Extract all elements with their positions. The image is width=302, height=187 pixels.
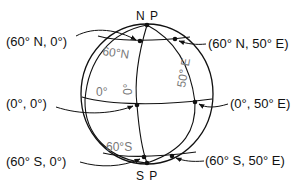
arrow-60s-50e: [176, 158, 204, 161]
south-pole-dot: [145, 161, 150, 166]
coord-label-0-0: (0°, 0°): [6, 96, 47, 111]
label-equator: 0°: [96, 85, 108, 99]
dot-60s-50e: [170, 154, 175, 159]
coord-label-60s-0: (60° S, 0°): [6, 154, 66, 169]
north-pole-dot: [145, 23, 150, 28]
dot-60n-0: [138, 39, 143, 44]
north-pole-label: N P: [136, 9, 159, 23]
dot-60s-0: [142, 155, 147, 160]
coord-label-60n-0: (60° N, 0°): [6, 34, 67, 49]
south-pole-label: S P: [136, 169, 158, 183]
dot-60n-50e: [173, 37, 178, 42]
label-60n: 60°N: [102, 44, 130, 62]
coord-label-60s-50e: (60° S, 50° E): [205, 153, 285, 168]
meridian-50e: [147, 25, 195, 163]
label-50e: 50° E: [174, 57, 193, 88]
label-prime-meridian: 0°: [121, 83, 135, 95]
dot-0-50e: [193, 100, 198, 105]
coord-label-0-50e: (0°, 50° E): [230, 96, 290, 111]
arrow-0-50e: [199, 104, 228, 107]
coord-label-60n-50e: (60° N, 50° E): [208, 36, 288, 51]
globe-diagram: N P S P 60°N 60°S 0° 0° 50° E (60° N, 0°…: [0, 0, 302, 187]
dot-0-0: [135, 103, 140, 108]
arrow-0-0: [56, 106, 133, 113]
prime-meridian: [136, 25, 147, 163]
label-60s: 60°S: [106, 140, 132, 154]
